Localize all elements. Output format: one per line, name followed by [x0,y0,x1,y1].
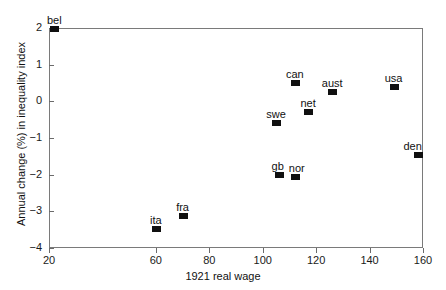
x-ticklabel-100: 100 [243,254,283,267]
point-label-nor: nor [289,163,305,174]
x-ticklabel-160: 160 [403,254,443,267]
plot-area [49,28,423,248]
data-point-nor [291,174,300,180]
data-point-can [291,80,300,86]
x-tick-100 [263,248,264,253]
x-ticklabel-80: 80 [189,254,229,267]
data-point-fra [179,213,188,219]
y-tick-−2 [49,175,54,176]
x-ticklabel-60: 60 [136,254,176,267]
y-tick-1 [49,65,54,66]
y-tick-0 [49,101,54,102]
point-label-can: can [286,69,304,80]
x-tick-60 [156,248,157,253]
data-point-aust [328,89,337,95]
data-point-den [414,152,423,158]
data-point-ita [152,226,161,232]
y-tick-−1 [49,138,54,139]
data-point-bel [50,26,59,32]
point-label-net: net [300,98,315,109]
x-tick-160 [423,248,424,253]
scatter-plot-figure: 206080100120140160 210−1−2−3−4 belitafra… [0,0,446,290]
point-label-ita: ita [150,215,162,226]
point-label-usa: usa [385,73,403,84]
x-tick-80 [209,248,210,253]
point-label-den: den [403,141,421,152]
y-tick-−3 [49,211,54,212]
x-ticklabel-20: 20 [29,254,69,267]
x-ticklabel-140: 140 [350,254,390,267]
data-point-usa [390,84,399,90]
y-tick-−4 [49,248,54,249]
data-point-net [304,109,313,115]
x-axis-label: 1921 real wage [0,270,446,282]
x-tick-120 [316,248,317,253]
data-point-gb [275,172,284,178]
point-label-fra: fra [176,202,189,213]
data-point-swe [272,120,281,126]
point-label-aust: aust [322,78,343,89]
x-ticklabel-120: 120 [296,254,336,267]
x-tick-140 [370,248,371,253]
point-label-gb: gb [272,161,284,172]
point-label-bel: bel [47,15,62,26]
point-label-swe: swe [266,109,286,120]
y-axis-label: Annual change (%) in inequality index [15,24,27,244]
